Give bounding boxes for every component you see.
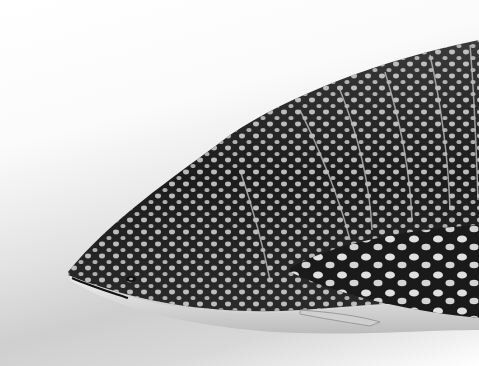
shark-drawing (0, 0, 479, 366)
whale-shark-illustration (0, 0, 479, 366)
eye (126, 276, 136, 282)
